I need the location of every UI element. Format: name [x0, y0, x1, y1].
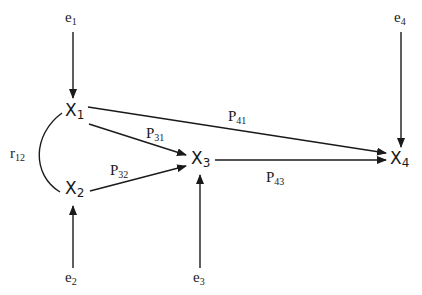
correlation-label-r12-sub: 12 [15, 152, 25, 163]
path-label-p31: P31 [146, 126, 164, 143]
node-x4-base: X [390, 148, 402, 168]
error-e3-base: e [193, 269, 200, 285]
error-e1: e1 [65, 10, 77, 27]
node-x3-base: X [191, 148, 203, 168]
error-e2-sub: 2 [72, 276, 77, 287]
error-e4-base: e [394, 9, 401, 25]
path-label-p32-sub: 32 [118, 169, 128, 180]
error-e1-sub: 1 [72, 16, 77, 27]
node-x3-sub: 3 [203, 156, 211, 170]
path-label-p32: P32 [110, 163, 128, 180]
node-x2-base: X [65, 178, 77, 198]
error-e4: e4 [394, 10, 406, 27]
node-x3: X3 [191, 150, 210, 169]
node-x4: X4 [390, 150, 409, 169]
node-x1: X1 [65, 102, 84, 121]
path-diagram-canvas [0, 0, 422, 295]
error-e2: e2 [65, 270, 77, 287]
node-x1-sub: 1 [77, 108, 85, 122]
error-e3-sub: 3 [200, 276, 205, 287]
path-label-p41-sub: 41 [236, 115, 246, 126]
correlation-label-r12: r12 [10, 146, 25, 163]
path-label-p43: P43 [266, 170, 284, 187]
error-e4-sub: 4 [401, 16, 406, 27]
error-e1-base: e [65, 9, 72, 25]
error-e2-base: e [65, 269, 72, 285]
error-e3: e3 [193, 270, 205, 287]
node-x2: X2 [65, 180, 84, 199]
path-label-p31-sub: 31 [154, 132, 164, 143]
path-label-p41: P41 [228, 109, 246, 126]
arrow-x1-x3 [89, 124, 186, 155]
node-x4-sub: 4 [402, 156, 410, 170]
node-x1-base: X [65, 100, 77, 120]
correlation-curve-r12 [39, 113, 62, 192]
path-label-p43-sub: 43 [274, 176, 284, 187]
node-x2-sub: 2 [77, 186, 85, 200]
arrow-x2-x3 [90, 166, 186, 191]
